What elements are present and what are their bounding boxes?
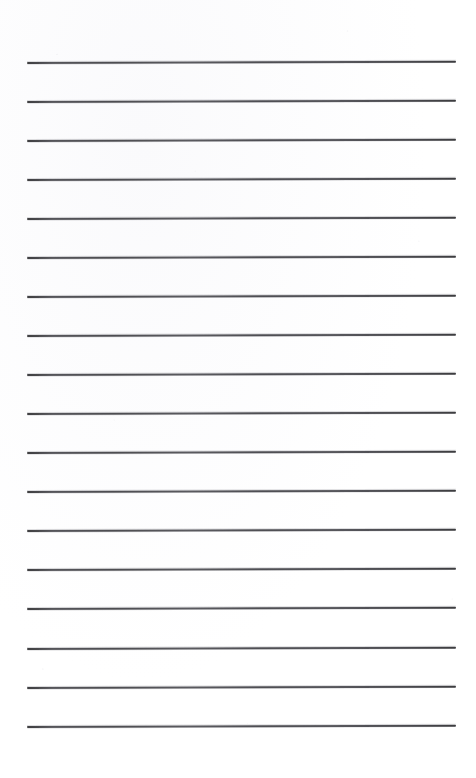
ruled-line [27,725,456,728]
ruled-line [27,61,456,64]
ruled-line [27,100,456,103]
ruled-line [27,686,456,689]
ruled-line [27,451,456,454]
ruled-line [27,490,456,493]
ruled-line [27,607,456,610]
ruled-line [27,217,456,220]
ruled-line [27,334,456,337]
ruled-line [27,295,456,298]
ruled-line [27,139,456,142]
lined-paper-page [0,0,476,778]
ruled-line [27,412,456,415]
ruled-lines-layer [0,0,476,778]
ruled-line [27,568,456,571]
ruled-line [27,647,456,650]
ruled-line [27,529,456,532]
ruled-line [27,373,456,376]
ruled-line [27,178,456,181]
ruled-line [27,256,456,259]
